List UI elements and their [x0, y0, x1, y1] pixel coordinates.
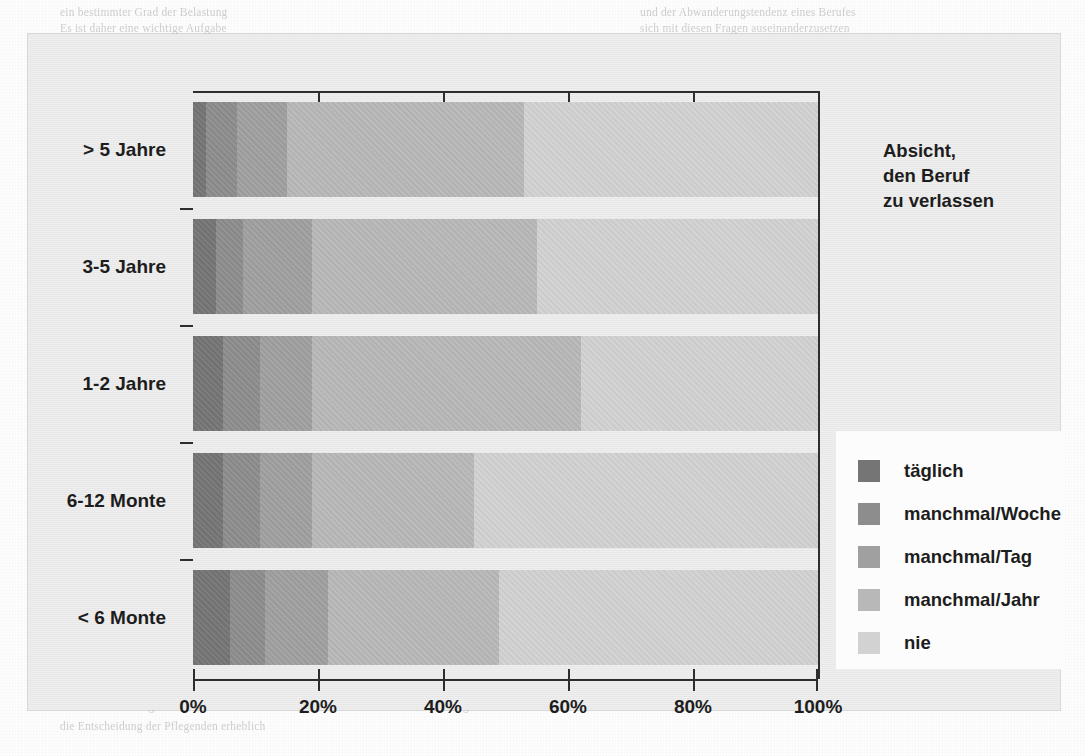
background-text-line: sich mit diesen Fragen auseinanderzusetz… [640, 22, 850, 34]
legend-item: manchmal/Tag [836, 535, 1064, 578]
chart-legend: täglichmanchmal/Wochemanchmal/Tagmanchma… [836, 431, 1064, 669]
legend-swatch-icon [858, 460, 880, 482]
bar-segment [499, 570, 818, 665]
legend-item: manchmal/Jahr [836, 578, 1064, 621]
bar-segment [581, 336, 819, 431]
bar-segment [193, 219, 216, 314]
bar-segment [193, 453, 223, 548]
x-tick-label: 20% [299, 696, 337, 718]
y-category-label: > 5 Jahre [83, 139, 166, 161]
bar-segment [223, 336, 260, 431]
bar-segment [193, 570, 230, 665]
bar-segment [223, 453, 260, 548]
bar-segment [537, 219, 818, 314]
y-axis-tick [180, 325, 193, 327]
legend-item-label: täglich [904, 460, 964, 482]
chart-title-line: Absicht, [883, 138, 994, 163]
chart-title-line: zu verlassen [883, 188, 994, 213]
bar-segment [216, 219, 243, 314]
bar-segment [243, 219, 312, 314]
y-axis-tick [180, 442, 193, 444]
legend-item-label: manchmal/Jahr [904, 589, 1040, 611]
x-tick-label: 40% [424, 696, 462, 718]
y-axis-tick [180, 208, 193, 210]
x-tick-label: 60% [549, 696, 587, 718]
axis-bottom-line [193, 679, 818, 681]
axis-right-line [818, 91, 820, 679]
background-text-line: und der Abwanderungstendenz eines Berufe… [640, 6, 856, 18]
background-text-line: die Entscheidung der Pflegenden erheblic… [60, 720, 266, 732]
legend-item: täglich [836, 449, 1064, 492]
x-tick-label: 0% [179, 696, 206, 718]
y-category-label: 6-12 Monte [67, 490, 166, 512]
legend-swatch-icon [858, 546, 880, 568]
background-text-line: ein bestimmter Grad der Belastung [60, 6, 228, 18]
legend-swatch-icon [858, 589, 880, 611]
x-tick-bottom [568, 669, 570, 691]
bar-segment [287, 102, 525, 197]
bar-segment [265, 570, 328, 665]
x-tick-label: 100% [794, 696, 843, 718]
bar-segment [312, 219, 537, 314]
plot-area: 0%20%40%60%80%100% > 5 Jahre3-5 Jahre1-2… [193, 91, 818, 679]
x-tick-bottom [193, 669, 195, 691]
y-axis-tick [180, 559, 193, 561]
chart-figure: 0%20%40%60%80%100% > 5 Jahre3-5 Jahre1-2… [28, 34, 1060, 710]
bar-segment [206, 102, 237, 197]
bar-segment [193, 336, 223, 431]
background-text-line: Es ist daher eine wichtige Aufgabe [60, 22, 227, 34]
bar-2 [193, 219, 818, 314]
bar-5 [193, 570, 818, 665]
y-category-label: < 6 Monte [78, 607, 166, 629]
x-tick-bottom [443, 669, 445, 691]
chart-title-line: den Beruf [883, 163, 994, 188]
bar-segment [193, 102, 206, 197]
bar-segment [328, 570, 499, 665]
bar-segment [260, 336, 312, 431]
bar-3 [193, 336, 818, 431]
y-category-label: 1-2 Jahre [83, 373, 166, 395]
bar-segment [260, 453, 312, 548]
legend-swatch-icon [858, 632, 880, 654]
x-tick-bottom [816, 669, 818, 691]
legend-item-label: manchmal/Woche [904, 503, 1061, 525]
chart-title: Absicht,den Berufzu verlassen [883, 138, 994, 213]
x-tick-bottom [693, 669, 695, 691]
bar-4 [193, 453, 818, 548]
bar-segment [312, 453, 475, 548]
bar-segment [230, 570, 265, 665]
bar-segment [312, 336, 581, 431]
legend-item-label: manchmal/Tag [904, 546, 1032, 568]
bar-segment [524, 102, 818, 197]
bar-segment [474, 453, 818, 548]
x-tick-label: 80% [674, 696, 712, 718]
bar-1 [193, 102, 818, 197]
legend-swatch-icon [858, 503, 880, 525]
axis-top-line [193, 91, 818, 93]
bar-segment [237, 102, 287, 197]
scanned-page-background: ein bestimmter Grad der Belastungund der… [0, 0, 1085, 756]
y-category-label: 3-5 Jahre [83, 256, 166, 278]
legend-item: manchmal/Woche [836, 492, 1064, 535]
x-tick-bottom [318, 669, 320, 691]
legend-item: nie [836, 621, 1064, 664]
legend-item-label: nie [904, 632, 931, 654]
